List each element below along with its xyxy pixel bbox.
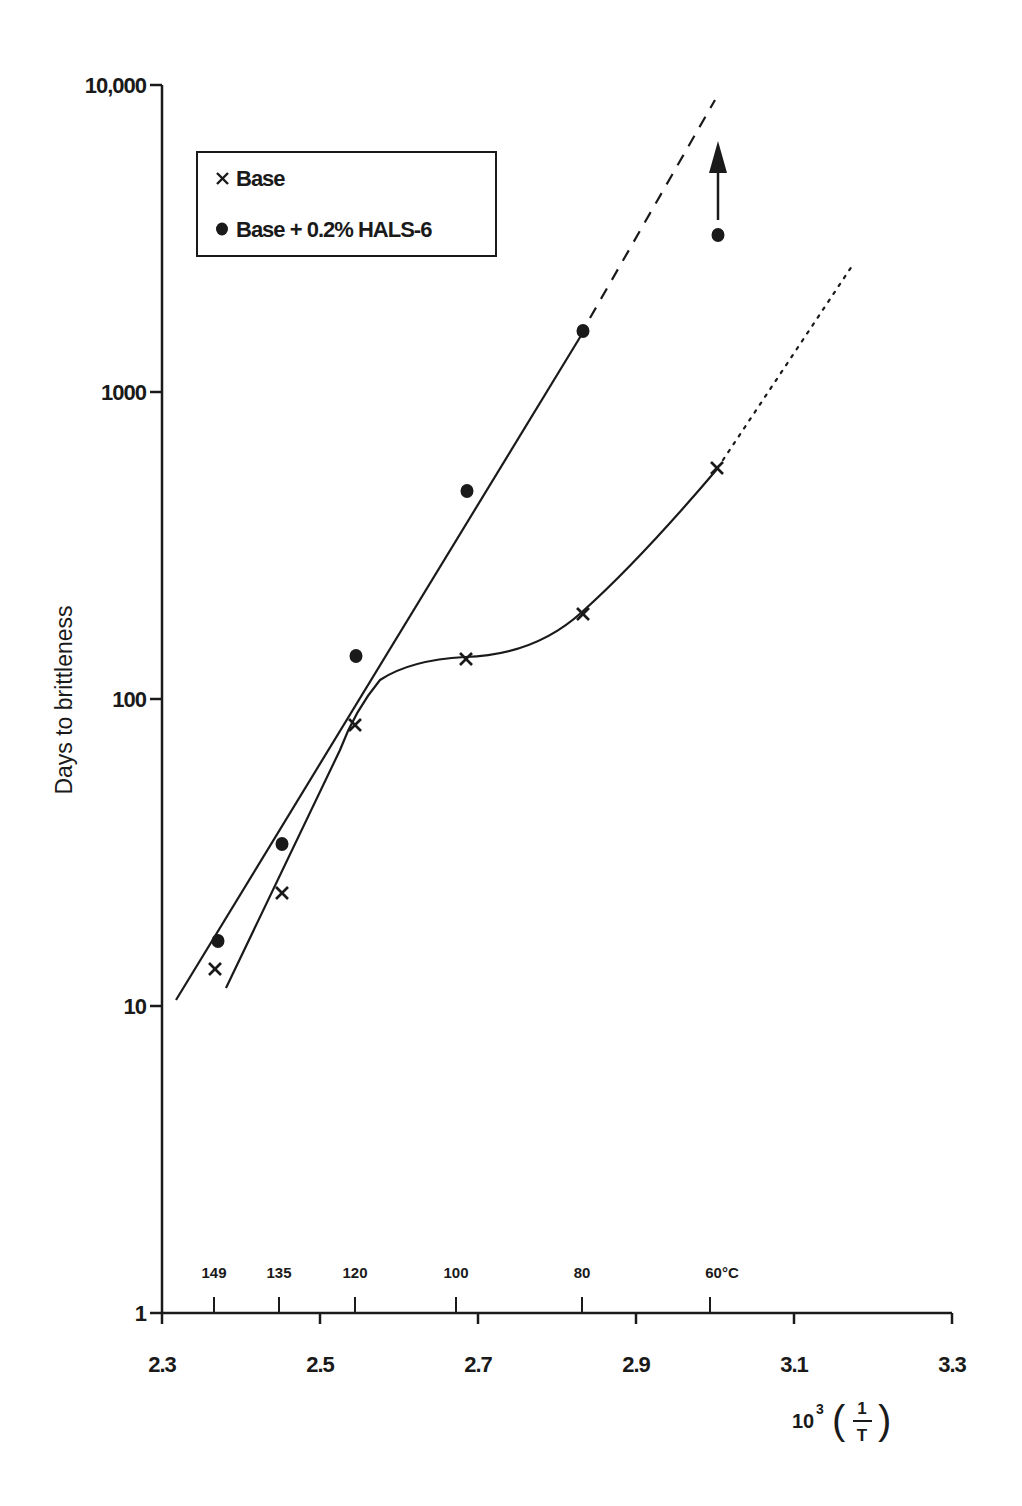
temperature-ticks bbox=[214, 1297, 710, 1313]
legend: Base Base + 0.2% HALS-6 bbox=[197, 152, 496, 256]
temperature-labels: 149 135 120 100 80 60°C bbox=[201, 1264, 738, 1281]
x-unit-lparen: ( bbox=[832, 1398, 846, 1442]
x-tick-3.1: 3.1 bbox=[780, 1352, 808, 1377]
temp-label-135: 135 bbox=[266, 1264, 291, 1281]
temp-label-149: 149 bbox=[201, 1264, 226, 1281]
legend-item-hals: Base + 0.2% HALS-6 bbox=[216, 217, 432, 242]
x-tick-2.9: 2.9 bbox=[622, 1352, 650, 1377]
up-arrow-icon bbox=[709, 141, 727, 220]
hals-point bbox=[461, 484, 474, 498]
dot-marker-icon bbox=[216, 223, 228, 236]
x-tick-3.3: 3.3 bbox=[938, 1352, 966, 1377]
base-extrapolation-dotted bbox=[723, 266, 852, 460]
hals-point bbox=[350, 649, 363, 663]
legend-label-hals: Base + 0.2% HALS-6 bbox=[236, 217, 432, 242]
base-fit-line bbox=[226, 266, 852, 988]
y-tick-labels: 10,000 1000 100 10 1 bbox=[85, 73, 147, 1326]
hals-markers bbox=[212, 228, 725, 948]
y-axis bbox=[150, 85, 162, 1313]
y-axis-title: Days to brittleness bbox=[51, 605, 77, 794]
arrhenius-chart: 10,000 1000 100 10 1 Days to brittleness… bbox=[0, 0, 1022, 1506]
x-unit-base: 10 bbox=[792, 1410, 814, 1432]
temp-label-80: 80 bbox=[574, 1264, 591, 1281]
hals-point bbox=[712, 228, 725, 242]
base-markers bbox=[209, 462, 723, 975]
y-tick-100: 100 bbox=[112, 687, 146, 712]
x-tick-2.3: 2.3 bbox=[148, 1352, 176, 1377]
x-tick-labels: 2.3 2.5 2.7 2.9 3.1 3.3 bbox=[148, 1352, 966, 1377]
base-point bbox=[711, 462, 723, 474]
base-point bbox=[209, 963, 221, 975]
x-tick-2.5: 2.5 bbox=[306, 1352, 334, 1377]
temp-label-60c: 60°C bbox=[705, 1264, 739, 1281]
temp-label-120: 120 bbox=[342, 1264, 367, 1281]
hals-point bbox=[212, 934, 225, 948]
hals-extrapolation-dashed bbox=[590, 100, 715, 318]
x-unit-denominator: T bbox=[857, 1426, 868, 1445]
y-tick-10: 10 bbox=[124, 994, 147, 1019]
temp-label-100: 100 bbox=[443, 1264, 468, 1281]
x-axis-unit: 10 3 ( 1 T ) bbox=[792, 1398, 891, 1445]
y-tick-10000: 10,000 bbox=[85, 73, 147, 98]
x-axis bbox=[162, 1313, 952, 1324]
base-point bbox=[460, 653, 472, 665]
legend-label-base: Base bbox=[236, 166, 285, 191]
base-point bbox=[276, 887, 288, 899]
x-unit-rparen: ) bbox=[878, 1398, 891, 1442]
y-tick-1: 1 bbox=[135, 1301, 147, 1326]
hals-point bbox=[276, 837, 289, 851]
hals-point bbox=[577, 324, 590, 338]
x-unit-numerator: 1 bbox=[857, 1399, 866, 1418]
x-tick-2.7: 2.7 bbox=[464, 1352, 492, 1377]
y-tick-1000: 1000 bbox=[101, 380, 147, 405]
x-unit-exponent: 3 bbox=[816, 1401, 824, 1417]
